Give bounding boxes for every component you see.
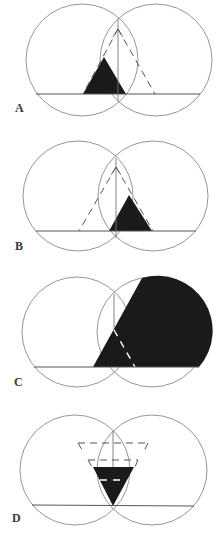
panel-c: C	[14, 276, 213, 389]
dashed-left-edge	[79, 167, 116, 231]
panel-b: B	[15, 141, 208, 253]
right-circle	[98, 141, 208, 251]
left-circle	[23, 141, 133, 251]
left-circle	[26, 4, 138, 116]
panel-label: D	[12, 511, 21, 525]
panel-a: A	[15, 4, 212, 116]
dashed-trapezoid-2-right	[135, 460, 138, 467]
panel-d: D	[12, 415, 207, 525]
right-circle	[100, 4, 212, 116]
black-triangle	[109, 195, 152, 231]
dashed-trapezoid-left	[78, 443, 84, 453]
diagram-canvas: A B C	[0, 0, 217, 540]
dashed-trapezoid-right	[143, 443, 148, 453]
panel-label: C	[14, 375, 23, 389]
dashed-trapezoid-2-left	[88, 460, 92, 467]
panel-label: A	[15, 101, 24, 115]
panel-label: B	[15, 239, 23, 253]
black-triangle	[83, 57, 126, 94]
dashed-right-edge	[118, 29, 155, 94]
black-region	[93, 276, 213, 367]
baseline	[32, 505, 194, 506]
